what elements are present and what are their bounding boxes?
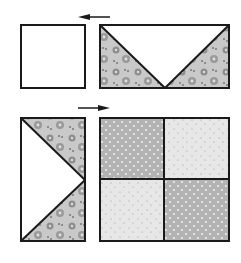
arrow-right-icon — [78, 105, 110, 111]
arrow-left-icon — [78, 14, 110, 20]
flying-geese-unit — [100, 25, 229, 88]
four-patch-bottom-right — [164, 179, 229, 241]
four-patch-top-right — [164, 118, 229, 179]
flying-geese-unit-vertical — [21, 118, 85, 241]
quilt-diagram — [0, 0, 241, 263]
four-patch-top-left — [100, 118, 164, 179]
four-patch-bottom-left — [100, 179, 164, 241]
plain-square — [21, 25, 85, 88]
four-patch — [100, 118, 229, 241]
